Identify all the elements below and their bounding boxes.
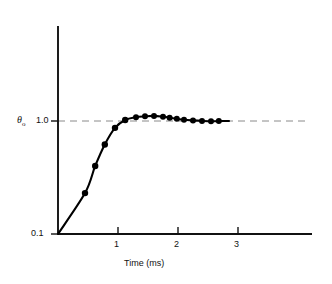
x-axis-title: Time (ms) (124, 259, 164, 268)
chart-figure: θo 1.0 0.1 1 2 3 Time (ms) (0, 0, 332, 284)
x-tick-label-1: 1 (114, 240, 119, 249)
data-point (167, 115, 173, 121)
data-point-markers (82, 113, 222, 196)
x-tick-label-3: 3 (234, 240, 239, 249)
y-tick-label-0.1: 0.1 (31, 229, 44, 238)
data-point (82, 190, 88, 196)
data-point (142, 113, 148, 119)
data-point (133, 114, 139, 120)
x-tick-label-2: 2 (174, 240, 179, 249)
data-point (122, 117, 128, 123)
data-point (174, 116, 180, 122)
data-point (160, 114, 166, 120)
chart-canvas (0, 0, 332, 284)
response-curve (58, 116, 229, 234)
data-point (181, 117, 187, 123)
y-axis-label-subscript: o (22, 120, 26, 128)
y-axis-label: θo (17, 115, 25, 128)
data-point (112, 125, 118, 131)
y-tick-label-1.0: 1.0 (36, 116, 49, 125)
data-point (102, 141, 108, 147)
data-point (216, 118, 222, 124)
data-point (92, 163, 98, 169)
data-point (199, 118, 205, 124)
data-point (208, 118, 214, 124)
data-point (151, 113, 157, 119)
data-point (190, 117, 196, 123)
